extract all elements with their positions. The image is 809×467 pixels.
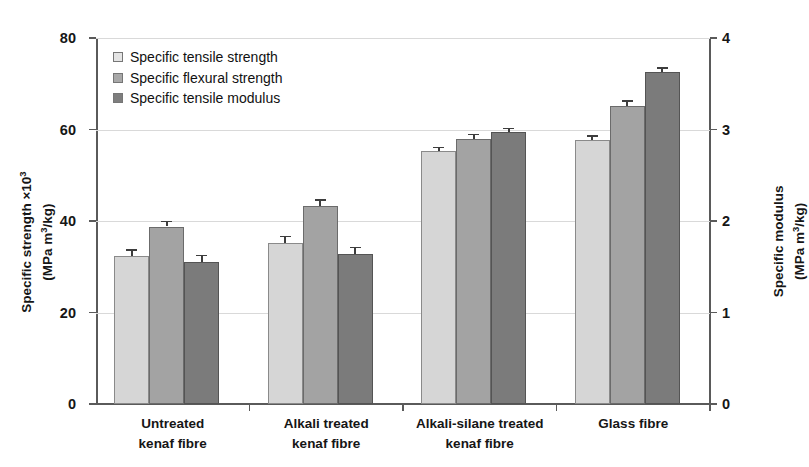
category-label: Alkali-silane treatedkenaf fibre (403, 414, 557, 455)
legend-label: Specific flexural strength (130, 70, 283, 86)
left-axis-tick-label: 0 (68, 396, 76, 412)
left-axis-tick (89, 312, 96, 314)
category-label-line: Glass fibre (557, 414, 711, 434)
right-axis-unit-tail: /kg) (792, 203, 807, 227)
right-axis-title-unit: (MPa m (792, 232, 807, 280)
category-label-line: Alkali treated (250, 414, 404, 434)
legend-swatch (113, 52, 123, 62)
left-axis-tick-label: 20 (60, 305, 76, 321)
right-axis-tick-label: 0 (722, 396, 730, 412)
right-axis-tick (710, 403, 717, 405)
left-axis-title-main: Specific strength ×10 (19, 177, 34, 313)
right-axis-tick (710, 37, 717, 39)
bar (149, 227, 184, 405)
right-axis-title: Specific modulus (MPa m3/kg) (769, 126, 809, 356)
category-label: Alkali treatedkenaf fibre (250, 414, 404, 455)
legend-item: Specific flexural strength (113, 69, 283, 88)
category-label-line: kenaf fibre (96, 434, 250, 454)
bar (338, 254, 373, 404)
bar (114, 256, 149, 404)
bottom-axis-tick (556, 404, 558, 411)
error-bar-cap (657, 67, 668, 69)
legend-swatch (113, 73, 123, 83)
bottom-axis-tick (249, 404, 251, 411)
bar (575, 140, 610, 404)
left-axis-tick (89, 129, 96, 131)
bar (456, 139, 491, 404)
error-bar-cap (126, 249, 137, 251)
category-label: Glass fibre (557, 414, 711, 434)
right-axis-unit-exponent: 3 (789, 227, 800, 232)
right-axis-title-main: Specific modulus (771, 185, 786, 297)
right-axis-tick (710, 129, 717, 131)
error-bar-cap (196, 255, 207, 257)
legend-item: Specific tensile modulus (113, 89, 283, 108)
error-bar-cap (468, 134, 479, 136)
left-axis-unit-tail: /kg) (41, 203, 56, 227)
category-label-line: Untreated (96, 414, 250, 434)
category-label-line: kenaf fibre (403, 434, 557, 454)
error-bar-cap (503, 128, 514, 130)
right-axis-tick (710, 312, 717, 314)
bottom-axis-tick (402, 404, 404, 411)
bar (610, 106, 645, 404)
left-axis-title-unit: (MPa m (41, 233, 56, 281)
right-axis-tick-label: 2 (722, 213, 730, 229)
right-axis-tick-label: 4 (722, 30, 730, 46)
legend-label: Specific tensile modulus (130, 90, 280, 106)
category-label-line: Alkali-silane treated (403, 414, 557, 434)
bar (184, 262, 219, 404)
bar (303, 206, 338, 404)
left-axis-tick-label: 40 (60, 213, 76, 229)
left-axis-title-exponent: 3 (17, 171, 28, 176)
chart-legend: Specific tensile strengthSpecific flexur… (113, 48, 283, 110)
error-bar-cap (280, 236, 291, 238)
left-axis-tick (89, 220, 96, 222)
error-bar-cap (433, 147, 444, 149)
right-axis-tick-label: 3 (722, 122, 730, 138)
bottom-axis-tick (709, 404, 711, 411)
legend-label: Specific tensile strength (130, 49, 278, 65)
error-bar-cap (622, 100, 633, 102)
bar (421, 151, 456, 404)
bar (645, 72, 680, 404)
legend-item: Specific tensile strength (113, 48, 283, 67)
error-bar-cap (315, 199, 326, 201)
error-bar-cap (350, 247, 361, 249)
error-bar-cap (587, 135, 598, 137)
right-axis-tick-label: 1 (722, 305, 730, 321)
error-bar-cap (161, 221, 172, 223)
right-axis-tick (710, 220, 717, 222)
left-axis-tick (89, 403, 96, 405)
left-axis-title: Specific strength ×103 (MPa m3/kg) (16, 127, 58, 357)
left-axis-tick-label: 80 (60, 30, 76, 46)
left-axis-tick-label: 60 (60, 122, 76, 138)
category-label: Untreatedkenaf fibre (96, 414, 250, 455)
bar (268, 243, 303, 404)
left-axis-unit-exponent: 3 (38, 227, 49, 232)
bar (491, 132, 526, 404)
category-label-line: kenaf fibre (250, 434, 404, 454)
left-axis-tick (89, 37, 96, 39)
legend-swatch (113, 93, 123, 103)
